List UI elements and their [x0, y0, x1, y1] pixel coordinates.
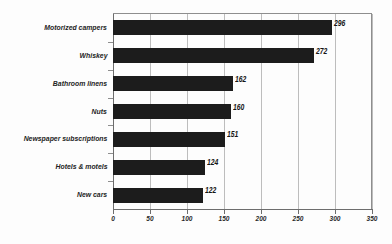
value-label: 122: [205, 186, 216, 195]
x-tick-label: 350: [361, 214, 384, 223]
plot-area: [113, 14, 372, 209]
x-tick-label: 200: [250, 214, 273, 223]
category-label: Nuts: [92, 107, 107, 116]
bar: [113, 104, 231, 119]
gridline-200: [261, 14, 262, 209]
gridline-250: [298, 14, 299, 209]
y-tick: [108, 125, 113, 126]
value-label: 296: [334, 19, 345, 28]
value-label: 160: [233, 103, 244, 112]
y-tick: [108, 98, 113, 99]
value-label: 162: [235, 75, 246, 84]
x-tick-label: 50: [139, 214, 162, 223]
gridline-300: [335, 14, 336, 209]
y-tick: [108, 181, 113, 182]
x-tick-label: 250: [287, 214, 310, 223]
value-label: 124: [207, 158, 218, 167]
bar: [113, 48, 314, 63]
x-tick-label: 300: [324, 214, 347, 223]
bar: [113, 160, 205, 175]
category-label: New cars: [77, 190, 107, 199]
value-label: 272: [316, 47, 327, 56]
category-label: Bathroom linens: [53, 79, 107, 88]
category-label: Newspaper subscriptions: [23, 134, 107, 143]
x-tick-label: 100: [176, 214, 199, 223]
category-label: Motorized campers: [44, 23, 107, 32]
category-label: Whiskey: [79, 51, 107, 60]
bar-chart: Motorized campersWhiskeyBathroom linensN…: [0, 0, 392, 244]
y-tick: [108, 42, 113, 43]
x-axis-line: [113, 209, 372, 210]
y-tick: [108, 70, 113, 71]
x-tick-label: 0: [102, 214, 125, 223]
x-tick-label: 150: [213, 214, 236, 223]
bar: [113, 20, 332, 35]
bar: [113, 188, 203, 203]
gridline-350: [372, 14, 373, 209]
bar: [113, 76, 233, 91]
category-label: Hotels & motels: [55, 162, 107, 171]
bar: [113, 132, 225, 147]
value-label: 151: [227, 130, 238, 139]
y-tick: [108, 153, 113, 154]
